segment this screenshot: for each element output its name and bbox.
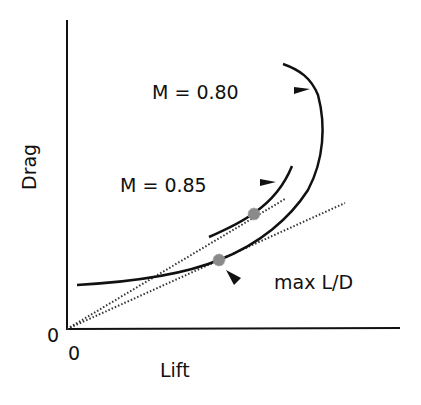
max-ld-marker-m085 <box>248 208 260 220</box>
diagram-canvas <box>0 0 421 405</box>
x-axis <box>66 328 400 329</box>
arrowhead-m085-icon <box>260 179 276 186</box>
arrowhead-maxld-icon <box>226 270 241 285</box>
x-axis-label: Lift <box>160 361 190 380</box>
max-ld-marker-m080 <box>213 254 225 266</box>
label-m085: M = 0.85 <box>120 176 207 195</box>
curve-m085 <box>209 166 292 237</box>
x-origin-tick: 0 <box>68 344 80 363</box>
arrowhead-m080-icon <box>294 87 310 94</box>
drag-polar-diagram: M = 0.80 M = 0.85 max L/D Lift Drag 0 0 <box>0 0 421 405</box>
y-origin-tick: 0 <box>47 326 59 345</box>
label-max-ld: max L/D <box>274 273 353 292</box>
label-m080: M = 0.80 <box>152 83 239 102</box>
y-axis-label: Drag <box>18 144 40 190</box>
